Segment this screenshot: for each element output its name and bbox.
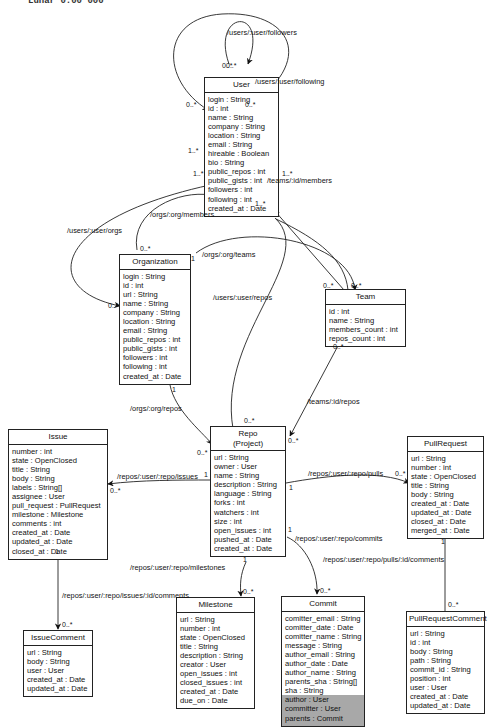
label-user-orgs: /users/:user/orgs [67, 226, 122, 235]
attribute: updated_at : Date [410, 701, 481, 710]
attribute: title : String [411, 481, 480, 490]
mult: 0..* [351, 282, 362, 289]
attribute: merged_at : Date [411, 526, 480, 535]
attribute: description : String [180, 651, 251, 660]
mult: 0..* [244, 417, 255, 424]
mult: 0..* [186, 101, 197, 108]
attribute: number : int [12, 447, 104, 456]
attribute: id : int [208, 104, 275, 113]
attribute: followers : int [123, 353, 187, 362]
attribute: public_repos : int [208, 167, 275, 176]
attribute: created_at : Date [410, 692, 481, 701]
attribute: watchers : int [214, 508, 282, 517]
mult: 1..* [255, 200, 266, 207]
class-milestone[interactable]: Milestone url : String number : int stat… [176, 597, 255, 709]
attribute: position : int [410, 674, 481, 683]
mult: 0..* [395, 470, 406, 477]
attribute: open_issues : int [214, 526, 282, 535]
label-org-members: /orgs/:org/members [150, 210, 214, 219]
attribute: user : User [410, 683, 481, 692]
attribute: body : String [410, 647, 481, 656]
label-issue-comments: /repos/:user/:repo/issues/:id/comments [62, 591, 189, 600]
class-team[interactable]: Team id : int name : String members_coun… [325, 289, 406, 347]
attribute: state : OpenClosed [180, 633, 251, 642]
attribute: name : String [208, 113, 275, 122]
mult: 0..* [140, 245, 151, 252]
mult: 1 [191, 255, 195, 262]
attribute: author_name : String [285, 668, 361, 677]
attribute: repos_count : int [329, 334, 402, 343]
mult: 0..* [197, 449, 208, 456]
class-pullrequestcomment[interactable]: PullRequestComment url : String id : int… [406, 611, 485, 714]
mult: 1 [172, 386, 176, 393]
class-pullrequest[interactable]: PullRequest url : String number : int st… [407, 436, 484, 539]
mult: 0..* [110, 487, 121, 494]
attributes: comitter_email : String comitter_date : … [282, 612, 364, 726]
attribute: name : String [329, 316, 402, 325]
class-commit[interactable]: Commit comitter_email : String comitter_… [281, 596, 365, 727]
attribute: comments : int [12, 519, 104, 528]
mult: 1 [243, 556, 247, 563]
attribute: company : String [123, 308, 187, 317]
attribute: public_gists : int [208, 176, 275, 185]
attribute: forks : int [214, 498, 282, 507]
attribute: state : OpenClosed [12, 456, 104, 465]
attribute: parents : Commit [285, 714, 361, 723]
attribute: path : String [410, 656, 481, 665]
label-repo-issues: /repos/:user/:repo/issues [117, 472, 198, 481]
attribute: number : int [180, 624, 251, 633]
mult: 1 [204, 471, 208, 478]
label-pull-comments: /repos/:user/:repo/pulls/:id/comments [323, 555, 444, 564]
mult: 1..* [282, 170, 293, 177]
attribute: author : User [285, 695, 361, 704]
label-followers: /users/:user/followers [227, 28, 297, 37]
attribute: creator : User [180, 660, 251, 669]
mult: 0..* [245, 101, 256, 108]
attribute: created_at : Date [411, 499, 480, 508]
class-name: Issue [9, 430, 107, 445]
attribute: hireable : Boolean [208, 149, 275, 158]
attribute: location : String [208, 131, 275, 140]
mult: 1..* [188, 147, 199, 154]
class-organization[interactable]: Organization login : String id : int url… [119, 254, 191, 385]
attributes: url : String owner : User name : String … [211, 451, 285, 556]
label-following: /users/:user/following [255, 77, 324, 86]
class-name: Organization [120, 255, 190, 270]
class-user[interactable]: User login : String id : int name : Stri… [204, 77, 279, 217]
label-repo-commits: /repos/:user/:repo/commits [295, 534, 383, 543]
attribute: title : String [12, 465, 104, 474]
attribute: location : String [123, 317, 187, 326]
mult: 0..* [62, 621, 73, 628]
class-issuecomment[interactable]: IssueComment url : String body : String … [23, 630, 93, 697]
label-org-teams: /orgs/:org/teams [202, 250, 255, 259]
attribute: updated_at : Date [12, 537, 104, 546]
mult: 0..* [448, 601, 459, 608]
attribute: closed_at : Date [411, 517, 480, 526]
label-team-members: /teams/:id/members [267, 176, 332, 185]
mult: 1 [55, 548, 59, 555]
attribute: body : String [12, 474, 104, 483]
attribute: closed_issues : int [180, 678, 251, 687]
mult: 1..* [193, 170, 204, 177]
class-name: Milestone [177, 598, 254, 613]
attribute: body : String [27, 657, 89, 666]
attribute: pull_request : PullRequest [12, 501, 104, 510]
attribute: author_date : Date [285, 659, 361, 668]
attributes: url : String number : int state : OpenCl… [177, 613, 254, 709]
attribute: due_on : Date [180, 696, 251, 705]
attribute: updated_at : Date [27, 684, 89, 693]
class-repo[interactable]: Repo (Project) url : String owner : User… [210, 426, 286, 557]
attribute: following : int [123, 362, 187, 371]
attribute: number : int [411, 463, 480, 472]
mult: 1 [289, 484, 293, 491]
attribute: bio : String [208, 158, 275, 167]
repo-commits-edge [287, 537, 317, 594]
attribute: url : String [27, 648, 89, 657]
reference-attributes: author : User committer : User parents :… [282, 695, 364, 725]
attribute: state : OpenClosed [411, 472, 480, 481]
attribute: name : String [214, 471, 282, 480]
attribute: url : String [123, 290, 187, 299]
class-issue[interactable]: Issue number : int state : OpenClosed ti… [8, 429, 108, 560]
attribute: size : int [214, 517, 282, 526]
class-name: Repo (Project) [211, 427, 285, 451]
